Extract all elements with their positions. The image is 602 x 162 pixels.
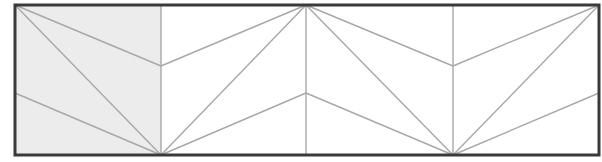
fold-line	[161, 93, 306, 155]
fold-line	[306, 5, 453, 155]
vertical-dividers	[161, 5, 453, 155]
fold-line	[306, 93, 453, 155]
fold-line	[453, 5, 599, 66]
fold-line	[453, 93, 599, 155]
fold-line	[161, 5, 306, 155]
fold-line	[161, 5, 306, 66]
fold-line	[306, 5, 453, 66]
folding-diagram	[0, 0, 602, 162]
fold-line	[453, 5, 599, 155]
